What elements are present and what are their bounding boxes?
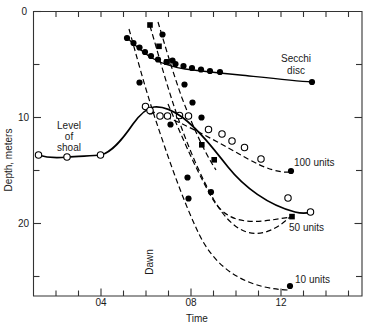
data-point	[207, 68, 213, 74]
y-tick-label-10: 10	[18, 112, 30, 123]
data-point	[124, 35, 130, 41]
data-point	[285, 195, 291, 201]
data-point	[148, 53, 154, 59]
data-point	[167, 121, 173, 127]
data-point	[164, 113, 170, 119]
data-point	[307, 209, 313, 215]
left-axis-ticks	[34, 12, 42, 277]
data-point	[184, 174, 190, 180]
data-point	[147, 22, 153, 28]
x-axis-title: Time	[186, 313, 208, 324]
plot-frame	[34, 12, 363, 297]
data-point	[156, 44, 162, 50]
annotation-secchi-disc: Secchi disc	[281, 53, 311, 76]
data-point	[309, 79, 315, 85]
data-point	[64, 154, 70, 160]
secchi-label-line2: disc	[287, 65, 305, 76]
data-point	[130, 40, 136, 46]
x-tick-label-04: 04	[95, 297, 107, 308]
y-axis-title: Depth, meters	[3, 129, 14, 192]
data-point	[189, 65, 195, 71]
right-axis-ticks	[355, 65, 363, 277]
bottom-axis-ticks	[56, 289, 349, 297]
data-point	[211, 157, 217, 163]
data-point	[189, 99, 195, 105]
data-point	[172, 61, 178, 67]
depth-vs-time-chart: 0 10 20 04 08 12 Depth, meters Time	[0, 0, 370, 326]
annotation-10-units: 10 units	[295, 274, 330, 285]
shoal-label-line3: shoal	[57, 142, 81, 153]
data-point	[180, 63, 186, 69]
annotation-100-units: 100 units	[294, 157, 335, 168]
secchi-label-line1: Secchi	[281, 53, 311, 64]
data-point	[185, 195, 191, 201]
data-point	[219, 131, 225, 137]
data-point	[136, 79, 142, 85]
data-point	[229, 138, 235, 144]
data-point	[159, 31, 165, 37]
annotation-level-of-shoal: Level of shoal	[57, 120, 81, 153]
series-50-units	[147, 22, 295, 233]
y-tick-label-20: 20	[18, 218, 30, 229]
data-point	[241, 144, 247, 150]
data-point	[136, 44, 142, 50]
y-tick-label-0: 0	[21, 6, 27, 17]
data-point	[287, 283, 293, 289]
data-point	[155, 56, 161, 62]
annotation-dawn: Dawn	[144, 249, 155, 275]
x-tick-label-12: 12	[275, 297, 287, 308]
data-point	[289, 214, 295, 220]
top-axis-ticks	[56, 12, 349, 18]
data-point	[163, 59, 169, 65]
data-point	[258, 156, 264, 162]
data-point	[205, 126, 211, 132]
data-point	[185, 113, 191, 119]
data-point	[199, 142, 205, 148]
data-point	[198, 114, 204, 120]
data-point	[35, 152, 41, 158]
shoal-label-line1: Level	[57, 120, 81, 131]
x-tick-label-08: 08	[185, 297, 197, 308]
shoal-label-line2: of	[65, 131, 74, 142]
data-point	[97, 152, 103, 158]
data-point	[217, 69, 223, 75]
data-point	[181, 81, 187, 87]
data-point	[147, 107, 153, 113]
data-point	[198, 66, 204, 72]
data-point	[142, 49, 148, 55]
data-point	[208, 189, 214, 195]
data-point	[288, 168, 294, 174]
chart-svg: 0 10 20 04 08 12 Depth, meters Time	[0, 0, 370, 326]
data-point	[157, 113, 163, 119]
annotation-50-units: 50 units	[289, 222, 324, 233]
